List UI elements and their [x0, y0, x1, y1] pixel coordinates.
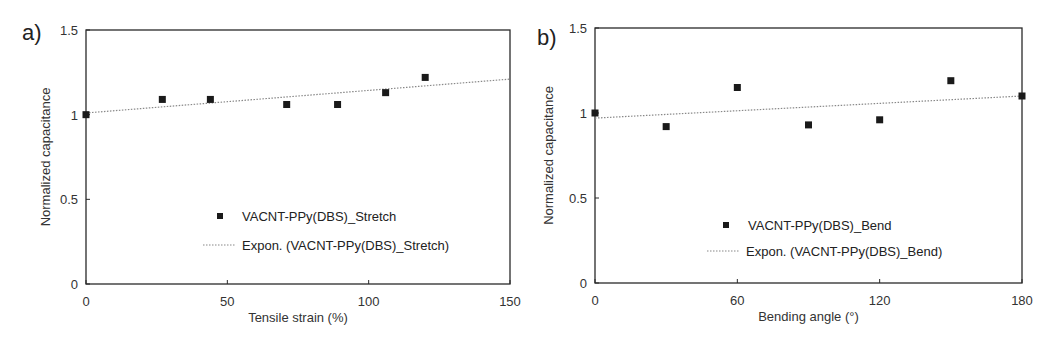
x-tick-label: 60 — [730, 293, 744, 308]
legend-label-trend: Expon. (VACNT-PPy(DBS)_Bend) — [746, 244, 942, 259]
legend: VACNT-PPy(DBS)_BendExpon. (VACNT-PPy(DBS… — [707, 218, 942, 259]
data-point — [1019, 93, 1026, 100]
y-tick-label: 0.5 — [569, 191, 587, 206]
data-point — [734, 84, 741, 91]
x-tick-label: 120 — [869, 293, 891, 308]
data-point — [876, 116, 883, 123]
x-tick-label: 100 — [358, 294, 380, 309]
data-point — [382, 89, 389, 96]
x-tick-label: 50 — [220, 294, 234, 309]
data-point — [283, 101, 290, 108]
x-axis-title: Bending angle (°) — [758, 309, 859, 324]
legend-marker-icon — [723, 222, 729, 228]
chart-panel-b: b)00.511.5060120180Bending angle (°)Norm… — [537, 21, 1033, 324]
y-tick-label: 1 — [71, 108, 78, 123]
data-point — [663, 123, 670, 130]
data-point — [207, 96, 214, 103]
y-axis-title: Normalized capacitance — [541, 86, 556, 225]
legend-label-data: VACNT-PPy(DBS)_Bend — [748, 218, 892, 233]
data-point — [83, 111, 90, 118]
x-tick-label: 0 — [591, 293, 598, 308]
data-point — [422, 74, 429, 81]
legend: VACNT-PPy(DBS)_StretchExpon. (VACNT-PPy(… — [203, 209, 449, 253]
legend-label-trend: Expon. (VACNT-PPy(DBS)_Stretch) — [242, 238, 449, 253]
trendline — [86, 79, 510, 113]
y-tick-label: 1.5 — [569, 21, 587, 36]
x-tick-label: 0 — [82, 294, 89, 309]
y-tick-label: 1 — [580, 106, 587, 121]
data-point — [947, 77, 954, 84]
y-axis-title: Normalized capacitance — [38, 88, 53, 227]
data-point — [592, 110, 599, 117]
data-point — [159, 96, 166, 103]
x-tick-label: 150 — [499, 294, 521, 309]
panel-label: a) — [22, 20, 42, 45]
y-tick-label: 0 — [580, 276, 587, 291]
legend-label-data: VACNT-PPy(DBS)_Stretch — [242, 209, 396, 224]
y-tick-label: 1.5 — [60, 23, 78, 38]
data-point — [334, 101, 341, 108]
y-tick-label: 0.5 — [60, 192, 78, 207]
chart-panel-a: a)00.511.5050100150Tensile strain (%)Nor… — [22, 20, 521, 325]
x-tick-label: 180 — [1011, 293, 1033, 308]
panel-label: b) — [537, 25, 557, 50]
x-axis-title: Tensile strain (%) — [248, 310, 348, 325]
figure: a)00.511.5050100150Tensile strain (%)Nor… — [0, 0, 1062, 347]
y-tick-label: 0 — [71, 277, 78, 292]
data-point — [805, 121, 812, 128]
legend-marker-icon — [217, 213, 223, 219]
trendline — [595, 96, 1022, 118]
